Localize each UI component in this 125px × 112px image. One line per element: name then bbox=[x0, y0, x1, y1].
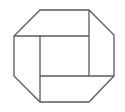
inner-dividing-lines bbox=[14, 10, 114, 102]
octagon-pinwheel-diagram bbox=[0, 0, 125, 112]
octagon-outline bbox=[14, 10, 114, 102]
